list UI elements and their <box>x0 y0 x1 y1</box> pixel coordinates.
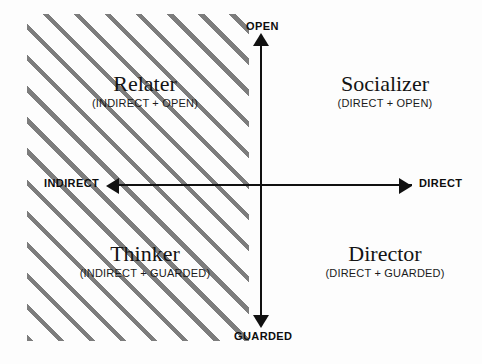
horizontal-axis-line <box>110 184 412 186</box>
quadrant-relater-subtitle: (INDIRECT + OPEN) <box>60 97 230 109</box>
quadrant-director-subtitle: (DIRECT + GUARDED) <box>300 267 470 279</box>
arrow-left-icon <box>106 178 119 194</box>
axis-label-direct: DIRECT <box>419 177 462 189</box>
arrow-right-icon <box>399 178 412 194</box>
quadrant-thinker-title: Thinker <box>55 242 235 265</box>
quadrant-socializer-subtitle: (DIRECT + OPEN) <box>300 97 470 109</box>
quadrant-director-title: Director <box>300 242 470 265</box>
quadrant-thinker-subtitle: (INDIRECT + GUARDED) <box>55 267 235 279</box>
quadrant-relater: Relater (INDIRECT + OPEN) <box>60 72 230 109</box>
axis-label-guarded: GUARDED <box>234 330 292 342</box>
arrow-up-icon <box>253 33 269 46</box>
arrow-down-icon <box>253 315 269 328</box>
vertical-axis-line <box>260 41 262 318</box>
quadrant-thinker: Thinker (INDIRECT + GUARDED) <box>55 242 235 279</box>
axis-label-open: OPEN <box>246 20 279 32</box>
quadrant-socializer: Socializer (DIRECT + OPEN) <box>300 72 470 109</box>
quadrant-socializer-title: Socializer <box>300 72 470 95</box>
axis-label-indirect: INDIRECT <box>44 177 99 189</box>
quadrant-diagram: OPEN GUARDED INDIRECT DIRECT Relater (IN… <box>0 0 482 364</box>
quadrant-director: Director (DIRECT + GUARDED) <box>300 242 470 279</box>
quadrant-relater-title: Relater <box>60 72 230 95</box>
